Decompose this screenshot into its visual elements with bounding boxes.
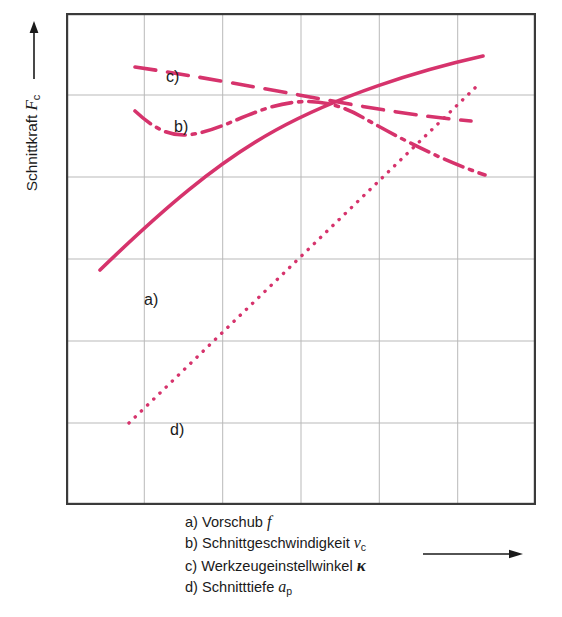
legend-symbol-b: v [354, 534, 361, 551]
legend-symbol-c: κ [357, 556, 366, 575]
curve-c-werkzeugeinstellwinkel [135, 67, 471, 121]
legend-symbol-sub-d: p [286, 584, 292, 596]
curve-label-b: b) [174, 118, 188, 136]
legend-item-a: a) Vorschub f [185, 512, 545, 533]
curve-label-c: c) [166, 68, 179, 86]
plot-svg [66, 13, 536, 505]
x-axis-arrow-right-icon [423, 548, 523, 560]
legend-item-d: d) Schnitttiefe ap [185, 577, 545, 598]
legend: a) Vorschub f b) Schnittgeschwindigkeit … [185, 512, 545, 598]
y-axis-block: Schnittkraft Fc [0, 13, 62, 313]
gridlines [66, 13, 536, 505]
legend-text-b: Schnittgeschwindigkeit [202, 535, 354, 551]
legend-key-c: c) [185, 558, 197, 574]
legend-symbol-sub-b: c [361, 541, 366, 553]
curve-label-a: a) [144, 291, 158, 309]
figure-container: Schnittkraft Fc [0, 0, 562, 617]
y-axis-symbol: F [22, 100, 41, 110]
legend-key-d: d) [185, 579, 198, 595]
legend-text-a: Vorschub [202, 514, 267, 530]
legend-text-d: Schnitttiefe [202, 579, 278, 595]
curve-label-d: d) [170, 421, 184, 439]
legend-text-c: Werkzeugeinstellwinkel [201, 558, 356, 574]
y-axis-title: Schnittkraft Fc [22, 28, 42, 258]
legend-key-a: a) [185, 514, 198, 530]
legend-key-b: b) [185, 535, 198, 551]
plot-area: a) b) c) d) [66, 13, 536, 505]
y-axis-title-text: Schnittkraft [23, 111, 40, 192]
y-axis-symbol-subscript: c [30, 95, 42, 100]
curve-a-vorschub [100, 56, 483, 270]
legend-symbol-a: f [267, 513, 271, 530]
